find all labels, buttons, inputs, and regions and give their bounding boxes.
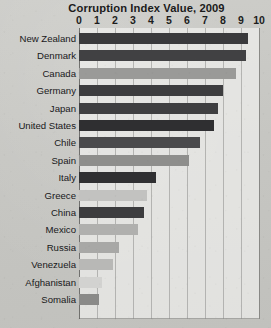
bar	[79, 33, 248, 44]
category-label: Canada	[0, 67, 76, 80]
bar-row: China	[0, 206, 271, 223]
bar-row: Greece	[0, 189, 271, 206]
bar	[79, 103, 218, 114]
category-label: New Zealand	[0, 32, 76, 45]
bar-row: Italy	[0, 171, 271, 188]
chart-title: Corruption Index Value, 2009	[0, 2, 271, 14]
x-axis-tick-5: 5	[166, 14, 172, 26]
x-axis-tick-6: 6	[184, 14, 190, 26]
bar	[79, 224, 138, 235]
category-label: Afghanistan	[0, 276, 76, 289]
category-label: Mexico	[0, 223, 76, 236]
category-label: Germany	[0, 84, 76, 97]
bar-row: Spain	[0, 154, 271, 171]
x-axis-tick-1: 1	[94, 14, 100, 26]
bar	[79, 259, 113, 270]
bar	[79, 137, 200, 148]
category-label: Spain	[0, 154, 76, 167]
bar	[79, 190, 147, 201]
bar-row: Afghanistan	[0, 276, 271, 293]
bar-row: Russia	[0, 241, 271, 258]
x-axis-tick-9: 9	[238, 14, 244, 26]
bar-row: Chile	[0, 136, 271, 153]
bar	[79, 68, 236, 79]
category-label: Denmark	[0, 49, 76, 62]
bar-row: Germany	[0, 84, 271, 101]
category-label: Japan	[0, 102, 76, 115]
bar	[79, 85, 223, 96]
x-axis-tick-0: 0	[76, 14, 82, 26]
bar	[79, 155, 189, 166]
bar-row: Japan	[0, 102, 271, 119]
x-axis-tick-10: 10	[253, 14, 265, 26]
chart-figure: Corruption Index Value, 2009 01234567891…	[0, 0, 271, 328]
bar	[79, 294, 99, 305]
bar-row: Venezuela	[0, 258, 271, 275]
bar-row: Somalia	[0, 293, 271, 310]
x-axis-tick-7: 7	[202, 14, 208, 26]
bar-row: United States	[0, 119, 271, 136]
category-label: Greece	[0, 189, 76, 202]
category-label: Somalia	[0, 293, 76, 306]
bar-row: Denmark	[0, 49, 271, 66]
bar	[79, 277, 102, 288]
bar-row: Canada	[0, 67, 271, 84]
bar	[79, 50, 246, 61]
x-axis-tick-8: 8	[220, 14, 226, 26]
category-label: United States	[0, 119, 76, 132]
x-axis-tick-4: 4	[148, 14, 154, 26]
bar	[79, 172, 156, 183]
x-axis-tick-2: 2	[112, 14, 118, 26]
category-label: China	[0, 206, 76, 219]
category-label: Italy	[0, 171, 76, 184]
bar	[79, 242, 119, 253]
bar	[79, 120, 214, 131]
x-axis-tick-3: 3	[130, 14, 136, 26]
category-label: Venezuela	[0, 258, 76, 271]
category-label: Chile	[0, 136, 76, 149]
bar-row: Mexico	[0, 223, 271, 240]
bar-row: New Zealand	[0, 32, 271, 49]
category-label: Russia	[0, 241, 76, 254]
bar	[79, 207, 144, 218]
